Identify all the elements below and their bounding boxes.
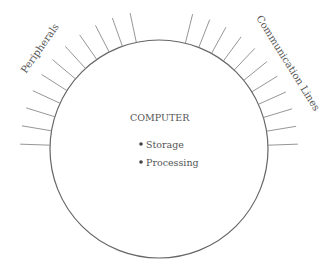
connection-line [65, 46, 85, 68]
connection-line [130, 13, 136, 42]
peripherals-label: Peripherals [19, 21, 61, 75]
computer-title: COMPUTER [130, 112, 190, 123]
connection-line [185, 14, 192, 43]
diagram-canvas: Peripherals Communication Lines COMPUTER… [0, 0, 322, 268]
connection-line [258, 92, 285, 104]
connection-line [33, 91, 60, 104]
connection-line [199, 20, 210, 48]
bullet-storage: Storage [146, 139, 184, 150]
communication-lines [185, 14, 298, 145]
connection-line [223, 37, 241, 61]
communication-lines-label: Communication Lines [254, 13, 322, 113]
connection-line [95, 25, 109, 52]
connection-line [53, 60, 76, 79]
connection-line [263, 109, 292, 118]
connection-line [252, 76, 278, 92]
connection-line [268, 144, 298, 145]
computer-diagram: Peripherals Communication Lines COMPUTER… [0, 0, 322, 268]
connection-line [112, 18, 122, 46]
connection-line [22, 126, 52, 131]
bullet-processing: Processing [146, 157, 199, 168]
connection-line [42, 75, 67, 91]
bullet-dot-processing [139, 160, 143, 164]
connection-line [267, 126, 297, 131]
connection-line [212, 27, 226, 53]
connection-line [80, 35, 97, 60]
bullet-dot-storage [139, 142, 143, 146]
connection-line [234, 48, 255, 70]
connection-line [20, 144, 50, 145]
connection-line [26, 108, 55, 117]
peripherals-lines [20, 13, 136, 145]
connection-line [244, 62, 267, 81]
